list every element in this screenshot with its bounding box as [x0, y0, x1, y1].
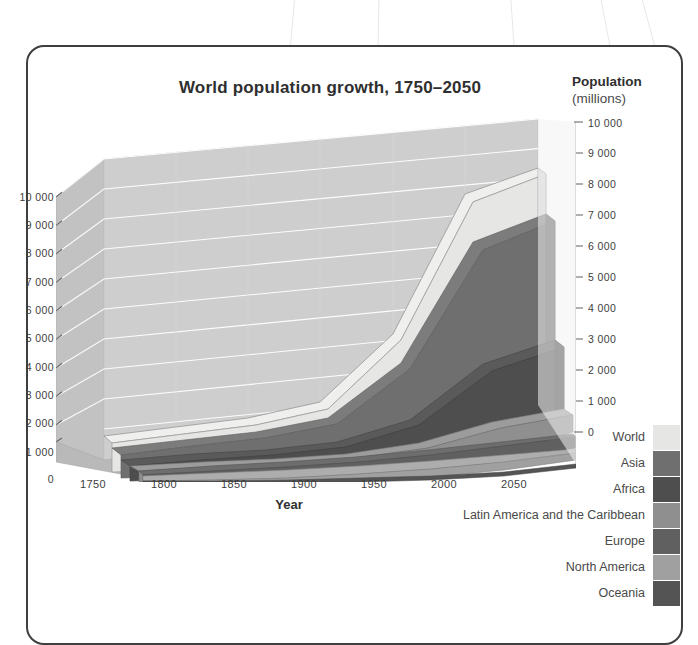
- legend-swatch-europe: [653, 529, 680, 554]
- yaxis-right-tick-3000: 3 000: [588, 333, 648, 345]
- yaxis-right-tick-5000: 5 000: [588, 271, 648, 283]
- yaxis-right-tick-9000: 9 000: [588, 147, 648, 159]
- legend-item-asia[interactable]: Asia: [380, 450, 680, 476]
- yaxis-header: Population (millions): [572, 74, 692, 108]
- legend-item-europe[interactable]: Europe: [380, 528, 680, 554]
- xaxis-tick-1750: 1750: [63, 478, 123, 490]
- yaxis-right-tick-6000: 6 000: [588, 240, 648, 252]
- yaxis-right-tick-1000: 1 000: [588, 395, 648, 407]
- chart-legend: World Asia Africa Latin America and the …: [380, 424, 680, 606]
- xaxis-tick-1900: 1900: [274, 478, 334, 490]
- yaxis-left-tick-1000: 1 000: [0, 446, 54, 458]
- yaxis-left-tick-0: 0: [0, 473, 54, 485]
- xaxis-tick-1850: 1850: [204, 478, 264, 490]
- legend-swatch-oceania: [653, 581, 680, 606]
- xaxis-tick-1800: 1800: [134, 478, 194, 490]
- yaxis-right-tick-2000: 2 000: [588, 364, 648, 376]
- yaxis-right-tick-8000: 8 000: [588, 178, 648, 190]
- yaxis-left-tick-10000: 10 000: [0, 191, 54, 203]
- legend-label-asia: Asia: [621, 456, 653, 470]
- yaxis-right-tick-10000: 10 000: [588, 117, 648, 129]
- legend-label-latin-america: Latin America and the Caribbean: [463, 508, 653, 522]
- legend-label-oceania: Oceania: [598, 586, 653, 600]
- legend-swatch-north-america: [653, 555, 680, 580]
- chart-title: World population growth, 1750–2050: [120, 78, 540, 98]
- yaxis-left-tick-7000: 7 000: [0, 276, 54, 288]
- yaxis-right-tick-4000: 4 000: [588, 302, 648, 314]
- legend-item-world[interactable]: World: [380, 424, 680, 450]
- legend-item-north-america[interactable]: North America: [380, 554, 680, 580]
- yaxis-left-tick-9000: 9 000: [0, 219, 54, 231]
- yaxis-left-tick-2000: 2 000: [0, 417, 54, 429]
- left-wall: [56, 159, 104, 460]
- yaxis-header-line1: Population: [572, 74, 692, 91]
- yaxis-left-tick-5000: 5 000: [0, 332, 54, 344]
- yaxis-right-tick-7000: 7 000: [588, 209, 648, 221]
- yaxis-header-line2: (millions): [572, 91, 692, 108]
- legend-item-africa[interactable]: Africa: [380, 476, 680, 502]
- right-wall-sliver: [538, 119, 576, 464]
- yaxis-left-tick-4000: 4 000: [0, 361, 54, 373]
- yaxis-left-tick-8000: 8 000: [0, 247, 54, 259]
- legend-label-north-america: North America: [566, 560, 653, 574]
- legend-label-africa: Africa: [613, 482, 653, 496]
- legend-item-oceania[interactable]: Oceania: [380, 580, 680, 606]
- legend-swatch-latin-america: [653, 503, 680, 528]
- legend-label-world: World: [613, 430, 653, 444]
- legend-swatch-asia: [653, 451, 680, 476]
- legend-swatch-africa: [653, 477, 680, 502]
- xaxis-title: Year: [249, 497, 329, 512]
- legend-label-europe: Europe: [605, 534, 653, 548]
- legend-swatch-world: [653, 425, 680, 450]
- yaxis-left-tick-3000: 3 000: [0, 389, 54, 401]
- legend-item-latin-america[interactable]: Latin America and the Caribbean: [380, 502, 680, 528]
- yaxis-left-tick-6000: 6 000: [0, 304, 54, 316]
- right-axis-ticks: [572, 118, 590, 436]
